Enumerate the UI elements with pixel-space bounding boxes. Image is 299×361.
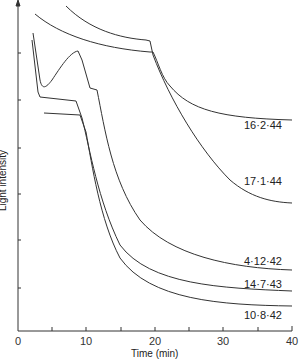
- x-tick-40: 40: [286, 335, 298, 347]
- series-label-10-8-42: 10·8·42: [244, 309, 282, 321]
- x-ticks: [52, 326, 292, 331]
- x-tick-0: 0: [15, 335, 21, 347]
- curve-4-12-42: [33, 33, 292, 270]
- x-tick-20: 20: [149, 335, 161, 347]
- series-label-17-1-44: 17·1·44: [244, 175, 282, 187]
- curve-16-2-44: [35, 14, 292, 120]
- x-axis-label: Time (min): [131, 348, 178, 359]
- y-axis-label: Light intensity: [0, 150, 8, 211]
- y-axis-arrow-icon: [16, 0, 20, 6]
- series-label-16-2-44: 16·2·44: [244, 119, 282, 131]
- x-tick-10: 10: [80, 335, 92, 347]
- series-label-14-7-43: 14·7·43: [244, 278, 282, 290]
- series-label-4-12-42: 4·12·42: [244, 255, 282, 267]
- x-tick-30: 30: [217, 335, 229, 347]
